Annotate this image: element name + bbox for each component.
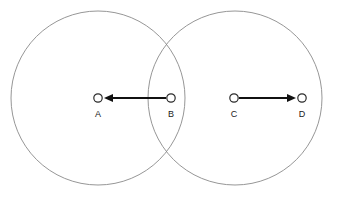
point-label-a: A bbox=[95, 109, 101, 119]
point-label-c: C bbox=[231, 109, 238, 119]
diagram-canvas: A B C D bbox=[0, 0, 337, 199]
arrow-b-to-a-head bbox=[104, 94, 113, 102]
point-marker-c bbox=[230, 94, 238, 102]
arrow-c-to-d bbox=[239, 94, 296, 102]
point-marker-a bbox=[94, 94, 102, 102]
geometry-diagram: A B C D bbox=[0, 0, 337, 199]
arrow-c-to-d-head bbox=[287, 94, 296, 102]
point-label-b: B bbox=[168, 109, 174, 119]
point-marker-b bbox=[167, 94, 175, 102]
arrow-b-to-a bbox=[104, 94, 166, 102]
point-marker-d bbox=[298, 94, 306, 102]
point-label-d: D bbox=[299, 109, 306, 119]
